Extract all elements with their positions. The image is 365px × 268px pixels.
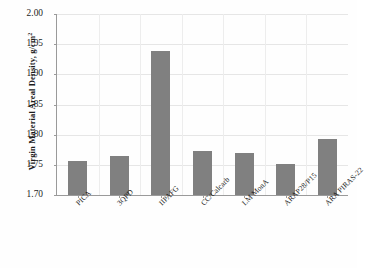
- y-tick-label: 1.90: [3, 68, 43, 78]
- gridline-vertical: [99, 14, 100, 195]
- gridline-horizontal: [57, 74, 348, 75]
- y-axis-title-superscript: 2: [27, 33, 33, 36]
- y-tick-mark: [54, 44, 57, 45]
- y-tick-mark: [54, 165, 57, 166]
- gridline-horizontal: [57, 14, 348, 15]
- gridline-horizontal: [57, 44, 348, 45]
- gridline-vertical: [182, 14, 183, 195]
- y-tick-label: 1.95: [3, 38, 43, 48]
- bar: [151, 51, 170, 195]
- gridline-vertical: [306, 14, 307, 195]
- plot-area: 2.001.951.901.851.801.751.70: [56, 14, 348, 196]
- y-tick-label: 1.70: [3, 189, 43, 199]
- bar: [318, 139, 337, 195]
- gridline-horizontal: [57, 135, 348, 136]
- y-tick-label: 2.00: [3, 8, 43, 18]
- gridline-vertical: [265, 14, 266, 195]
- y-tick-label: 1.75: [3, 159, 43, 169]
- y-tick-label: 1.85: [3, 99, 43, 109]
- bar: [193, 151, 212, 195]
- y-tick-label: 1.80: [3, 129, 43, 139]
- y-tick-mark: [54, 74, 57, 75]
- gridline-vertical: [140, 14, 141, 195]
- y-tick-mark: [54, 105, 57, 106]
- y-tick-mark: [54, 14, 57, 15]
- y-tick-mark: [54, 195, 57, 196]
- gridline-horizontal: [57, 105, 348, 106]
- gridline-vertical: [223, 14, 224, 195]
- y-tick-mark: [54, 135, 57, 136]
